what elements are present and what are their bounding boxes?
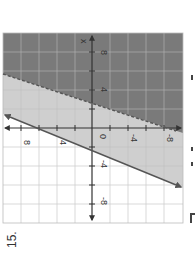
cutoff-text-fragments: [190, 75, 195, 223]
tick-label-h-4: 4: [58, 140, 68, 145]
tick-label-h-neg8: -8: [165, 134, 175, 142]
tick-label-h-neg4: -4: [129, 134, 139, 142]
tick-label-h-8: 8: [22, 140, 32, 145]
tick-label-v-4: 4: [99, 87, 109, 92]
tick-label-v-neg8: -8: [99, 197, 109, 205]
tick-label-h-0: 0: [98, 134, 108, 139]
tick-label-v-8: 8: [99, 50, 109, 55]
problem-number: 15.: [5, 231, 19, 248]
inequality-graph: 8 4 0 -4 -8 8 4 -4 -8 x 15.: [0, 0, 196, 254]
axis-label-x: x: [79, 39, 89, 44]
tick-label-v-neg4: -4: [99, 160, 109, 168]
